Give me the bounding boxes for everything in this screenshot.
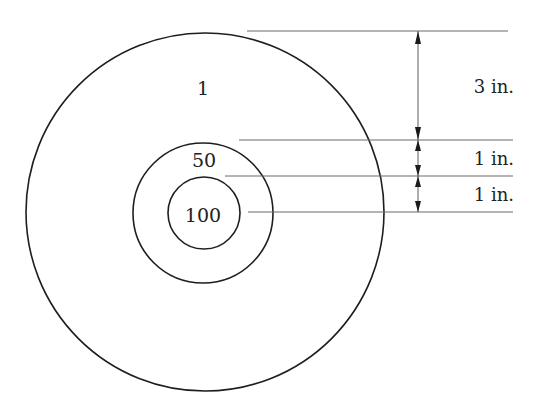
arrow-up-icon bbox=[415, 140, 421, 151]
inner-ring-score-label: 100 bbox=[185, 204, 221, 226]
dimension-label-middle: 1 in. bbox=[474, 148, 514, 169]
arrow-down-icon bbox=[415, 127, 421, 140]
arrow-down-icon bbox=[415, 165, 421, 176]
dimension-label-inner: 1 in. bbox=[474, 184, 514, 205]
dimension-label-outer: 3 in. bbox=[474, 76, 514, 97]
arrow-up-icon bbox=[415, 176, 421, 187]
middle-ring-score-label: 50 bbox=[192, 149, 216, 171]
target-diagram: 1 50 100 3 in. 1 in. 1 in. bbox=[0, 0, 534, 415]
arrow-up-icon bbox=[415, 31, 421, 44]
arrow-down-icon bbox=[415, 201, 421, 212]
outer-ring-score-label: 1 bbox=[197, 77, 209, 99]
